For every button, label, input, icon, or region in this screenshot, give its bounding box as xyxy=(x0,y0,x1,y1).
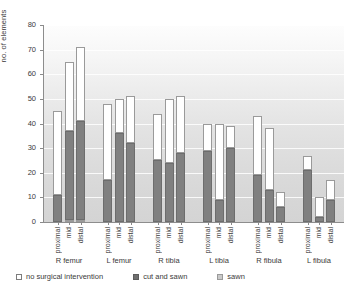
x-axis-category-label: proximal xyxy=(154,227,161,253)
bar xyxy=(103,25,112,222)
bar-segment-cut xyxy=(165,163,174,222)
bar xyxy=(203,25,212,222)
x-axis-tick-mark xyxy=(269,222,270,225)
bar-segment-none xyxy=(165,99,174,163)
bar-segment-cut xyxy=(203,151,212,222)
legend-item-cut-and-sawn: cut and sawn xyxy=(133,272,187,281)
x-axis-category-label: mid xyxy=(165,227,172,238)
x-axis-group-label: R femur xyxy=(44,256,94,265)
x-axis-category-label: distal xyxy=(127,227,134,243)
bar xyxy=(126,25,135,222)
x-axis-category-label: distal xyxy=(77,227,84,243)
gridline xyxy=(44,124,344,125)
x-axis-group-label: R fibula xyxy=(244,256,294,265)
bar xyxy=(76,25,85,222)
bar-segment-none xyxy=(153,114,162,161)
x-axis-tick-mark xyxy=(119,222,120,225)
y-axis-tick-label: 80 xyxy=(14,20,36,29)
gridline xyxy=(44,25,344,26)
legend-swatch-icon xyxy=(133,274,139,280)
gridline xyxy=(44,173,344,174)
x-axis-category-label: mid xyxy=(215,227,222,238)
bar-segment-cut xyxy=(176,153,185,222)
bar-segment-none xyxy=(103,104,112,180)
bar xyxy=(176,25,185,222)
chart-legend: no surgical intervention cut and sawn sa… xyxy=(16,272,245,281)
legend-item-no-surgical-intervention: no surgical intervention xyxy=(16,272,103,281)
y-axis-tick-label: 20 xyxy=(14,168,36,177)
bar-segment-none xyxy=(226,126,235,148)
bar-segment-none xyxy=(53,111,62,195)
x-axis-tick-mark xyxy=(281,222,282,225)
bar-segment-cut xyxy=(126,143,135,222)
x-axis-category-label: distal xyxy=(227,227,234,243)
bar xyxy=(65,25,74,222)
gridline xyxy=(44,74,344,75)
bar-segment-cut xyxy=(253,175,262,222)
bar-segment-cut xyxy=(115,133,124,222)
x-axis-tick-mark xyxy=(219,222,220,225)
bar-segment-none xyxy=(276,192,285,207)
bar xyxy=(303,25,312,222)
bar-segment-cut xyxy=(326,200,335,222)
bar-segment-cut xyxy=(76,121,85,220)
bar xyxy=(115,25,124,222)
bar xyxy=(53,25,62,222)
legend-swatch-icon xyxy=(217,274,223,280)
legend-swatch-icon xyxy=(16,274,22,280)
bar-segment-none xyxy=(76,47,85,121)
gridline xyxy=(44,148,344,149)
x-axis-tick-mark xyxy=(58,222,59,225)
x-axis-tick-mark xyxy=(69,222,70,225)
bar xyxy=(153,25,162,222)
bar xyxy=(265,25,274,222)
bar-segment-none xyxy=(115,99,124,133)
x-axis-category-label: proximal xyxy=(104,227,111,253)
legend-label: sawn xyxy=(227,272,245,281)
x-axis-category-label: proximal xyxy=(304,227,311,253)
y-axis-label: no. of elements xyxy=(0,0,8,96)
bar-segment-cut xyxy=(265,190,274,222)
bar-segment-cut xyxy=(53,195,62,222)
y-axis-tick-label: 30 xyxy=(14,143,36,152)
bar-segment-none xyxy=(315,197,324,217)
x-axis-category-label: mid xyxy=(265,227,272,238)
y-axis-tick-label: 60 xyxy=(14,69,36,78)
y-axis-line xyxy=(43,25,44,222)
x-axis-tick-mark xyxy=(108,222,109,225)
x-axis-group-label: L femur xyxy=(94,256,144,265)
x-axis-category-label: distal xyxy=(277,227,284,243)
bar-segment-none xyxy=(203,124,212,151)
bar-segment-cut xyxy=(276,207,285,222)
x-axis-category-label: distal xyxy=(177,227,184,243)
plot-area xyxy=(44,25,344,222)
bar-segment-none xyxy=(326,180,335,200)
x-axis-group-label: R tibia xyxy=(144,256,194,265)
x-axis-tick-mark xyxy=(169,222,170,225)
legend-label: no surgical intervention xyxy=(26,272,103,281)
bar xyxy=(276,25,285,222)
x-axis-category-label: proximal xyxy=(254,227,261,253)
x-axis-group-label: L fibula xyxy=(294,256,344,265)
bar-segment-cut xyxy=(103,180,112,222)
y-axis-tick-label: 50 xyxy=(14,94,36,103)
bar xyxy=(253,25,262,222)
bar-segment-none xyxy=(176,96,185,153)
x-axis-tick-mark xyxy=(131,222,132,225)
x-axis-category-label: proximal xyxy=(54,227,61,253)
x-axis-tick-mark xyxy=(158,222,159,225)
gridline xyxy=(44,197,344,198)
bar-segment-cut xyxy=(226,148,235,222)
bar-segment-none xyxy=(215,124,224,200)
y-axis-tick-label: 40 xyxy=(14,119,36,128)
x-axis-tick-mark xyxy=(308,222,309,225)
x-axis-tick-mark xyxy=(258,222,259,225)
x-axis-tick-mark xyxy=(208,222,209,225)
bar-segment-cut xyxy=(303,170,312,222)
bar-segment-none xyxy=(126,96,135,143)
bar xyxy=(326,25,335,222)
gridline xyxy=(44,99,344,100)
bar-segment-none xyxy=(253,116,262,175)
bar xyxy=(226,25,235,222)
x-axis-tick-mark xyxy=(181,222,182,225)
